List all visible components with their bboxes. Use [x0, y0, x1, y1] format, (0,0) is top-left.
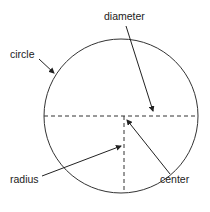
arrow-diameter [126, 26, 153, 111]
arrow-circle [39, 59, 54, 73]
arrow-center [127, 120, 170, 174]
label-radius: radius [10, 173, 39, 185]
label-circle: circle [10, 48, 35, 60]
label-diameter: diameter [104, 10, 145, 22]
circle-diagram: circle diameter radius center [0, 0, 210, 212]
label-center: center [160, 173, 190, 185]
arrow-radius [42, 146, 121, 176]
